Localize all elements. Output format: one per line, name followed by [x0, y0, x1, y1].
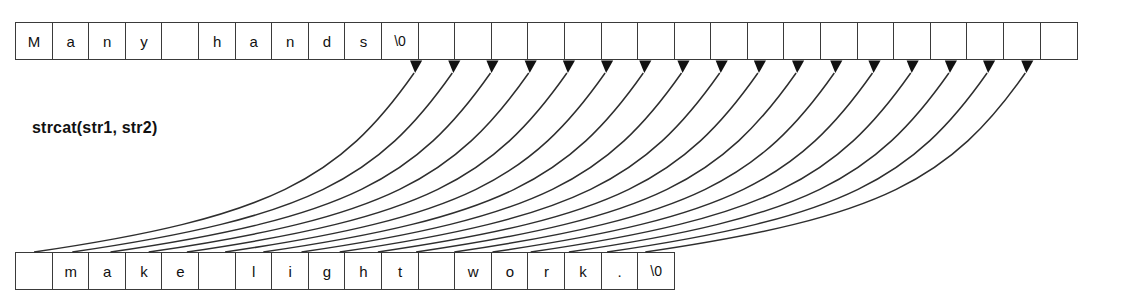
copy-arrow-curve [187, 73, 567, 252]
str1-cell [527, 22, 565, 60]
str2-cell: k [125, 252, 163, 290]
str2-cell: . [601, 252, 639, 290]
copy-arrow-head-icon [830, 61, 842, 74]
str1-cell: y [125, 22, 163, 60]
copy-arrow-head-icon [792, 61, 804, 74]
copy-arrow-curve [607, 73, 987, 252]
str1-cell [710, 22, 748, 60]
copy-arrow-curve [454, 73, 834, 252]
str2-cell: l [235, 252, 273, 290]
copy-arrow-curve [645, 73, 1025, 252]
bottom-array-str2: makelightwork.\0 [15, 252, 675, 290]
str1-cell: \0 [381, 22, 419, 60]
str1-cell [161, 22, 199, 60]
str1-cell [564, 22, 602, 60]
copy-arrow-curve [493, 73, 873, 252]
str1-cell [491, 22, 529, 60]
copy-arrow-curve [263, 73, 643, 252]
str2-cell [198, 252, 236, 290]
str1-cell [893, 22, 931, 60]
copy-arrow-curve [569, 73, 949, 252]
str1-cell: a [235, 22, 273, 60]
str1-cell [454, 22, 492, 60]
str1-cell [930, 22, 968, 60]
copy-arrow-head-icon [907, 61, 919, 74]
copy-arrow-head-icon [945, 61, 957, 74]
str1-cell: n [271, 22, 309, 60]
strcat-diagram: Manyhands\0 makelightwork.\0 strcat(str1… [0, 0, 1138, 297]
str2-cell [418, 252, 456, 290]
str1-cell [747, 22, 785, 60]
copy-arrow-curve [302, 73, 682, 252]
str2-cell: k [564, 252, 602, 290]
copy-arrow-curve [531, 73, 911, 252]
top-array-str1: Manyhands\0 [15, 22, 1078, 60]
copy-arrow-head-icon [525, 61, 537, 74]
copy-arrow-curve [111, 73, 491, 252]
str2-cell: h [344, 252, 382, 290]
strcat-call-label: strcat(str1, str2) [32, 119, 157, 137]
copy-arrow-head-icon [716, 61, 728, 74]
str2-cell: o [491, 252, 529, 290]
str1-cell: a [52, 22, 90, 60]
copy-arrow-head-icon [563, 61, 575, 74]
str1-cell: n [88, 22, 126, 60]
str2-cell: g [308, 252, 346, 290]
str2-cell: a [88, 252, 126, 290]
copy-arrow-head-icon [754, 61, 766, 74]
copy-arrow-head-icon [1021, 61, 1033, 74]
copy-arrow-curve [378, 73, 758, 252]
str1-cell [857, 22, 895, 60]
copy-arrow-curve [225, 73, 605, 252]
copy-arrow-head-icon [677, 61, 689, 74]
str1-cell [1040, 22, 1078, 60]
str1-cell [601, 22, 639, 60]
str1-cell [418, 22, 456, 60]
str1-cell [820, 22, 858, 60]
str1-cell [637, 22, 675, 60]
copy-arrow-curve [416, 73, 796, 252]
copy-arrow-head-icon [448, 61, 460, 74]
str1-cell [783, 22, 821, 60]
str2-cell: m [52, 252, 90, 290]
copy-arrow-head-icon [983, 61, 995, 74]
copy-arrow-curve [34, 73, 414, 252]
copy-arrow-head-icon [486, 61, 498, 74]
str1-cell: d [308, 22, 346, 60]
str2-cell [15, 252, 53, 290]
str1-cell [966, 22, 1004, 60]
str2-cell: e [161, 252, 199, 290]
copy-arrow-head-icon [601, 61, 613, 74]
str2-cell: i [271, 252, 309, 290]
str2-cell: r [527, 252, 565, 290]
copy-arrow-head-icon [868, 61, 880, 74]
copy-arrow-curve [340, 73, 720, 252]
str1-cell: h [198, 22, 236, 60]
copy-arrow-head-icon [639, 61, 651, 74]
copy-arrow-curve [149, 73, 529, 252]
copy-arrow-curve [72, 73, 452, 252]
str2-cell: \0 [637, 252, 675, 290]
copy-arrow-head-icon [410, 61, 422, 74]
str1-cell [674, 22, 712, 60]
str1-cell: M [15, 22, 53, 60]
str2-cell: w [454, 252, 492, 290]
str1-cell [1003, 22, 1041, 60]
str2-cell: t [381, 252, 419, 290]
str1-cell: s [344, 22, 382, 60]
